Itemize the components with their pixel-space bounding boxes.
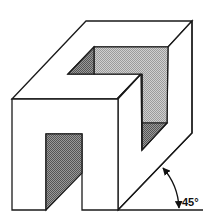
angle-arc: [163, 168, 179, 208]
angle-label: 45°: [182, 196, 199, 208]
front-notch-shade: [46, 134, 82, 210]
oblique-drawing: 45°: [0, 0, 218, 222]
